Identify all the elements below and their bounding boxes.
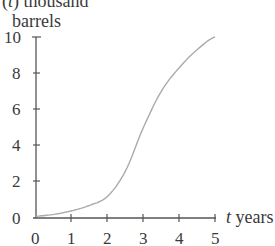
- y-tick-label: 0: [12, 210, 21, 227]
- x-tick-label: 3: [139, 230, 148, 246]
- x-tick-label: 0: [31, 230, 40, 246]
- y-tick-label: 2: [12, 173, 21, 190]
- x-tick-label: 1: [67, 230, 76, 246]
- data-line: [36, 37, 215, 216]
- y-tick-label: 6: [12, 101, 21, 118]
- y-tick-label: 8: [12, 65, 21, 82]
- x-tick-label: 2: [103, 230, 112, 246]
- y-tick-label: 4: [12, 137, 21, 154]
- x-axis-label: t years: [226, 208, 274, 226]
- y-tick-label: 10: [4, 29, 21, 46]
- x-tick-label: 4: [175, 230, 184, 246]
- x-tick-label: 5: [211, 230, 220, 246]
